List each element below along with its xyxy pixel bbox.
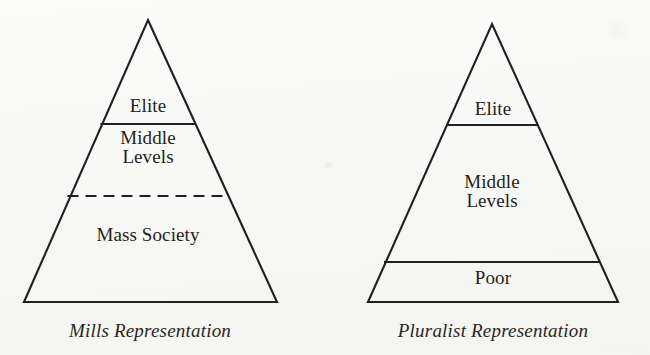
pluralist-caption: Pluralist Representation [348,320,638,342]
mills-tier-label-elite: Elite [78,96,218,115]
mills-caption: Mills Representation [10,320,290,342]
pluralist-tier-label-middle-levels: Middle Levels [412,172,572,211]
mills-tier-label-mass-society: Mass Society [48,225,248,244]
pluralist-tier-label-elite: Elite [423,99,563,118]
mills-tier-label-middle-levels: Middle Levels [68,128,228,167]
pluralist-triangle-outline [368,24,618,302]
pluralist-tier-label-poor: Poor [423,268,563,287]
pluralist-pyramid [368,24,618,302]
figure-root: Elite Middle Levels Mass Society Mills R… [0,0,650,355]
